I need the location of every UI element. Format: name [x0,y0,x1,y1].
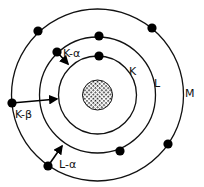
transition-label-l-alpha: L-α [59,158,76,171]
transition-label-k-alpha: K-α [63,47,80,60]
nucleus [83,80,113,110]
electron-m [163,139,172,148]
electron-m [147,23,156,32]
electron-l [52,47,61,56]
electron-k [94,51,103,60]
shell-label-l: L [154,77,161,90]
electron-m [7,98,16,107]
arrow-k-beta [12,99,57,103]
electron-l [115,146,124,155]
electron-m [43,161,52,170]
transition-label-k-beta: K-β [15,108,32,121]
electron-l [94,31,103,40]
shell-label-m: M [185,87,195,100]
electron-m [33,26,42,35]
atom-diagram: K L M K-α K-β L-α [0,0,204,187]
shell-label-k: K [129,65,137,78]
